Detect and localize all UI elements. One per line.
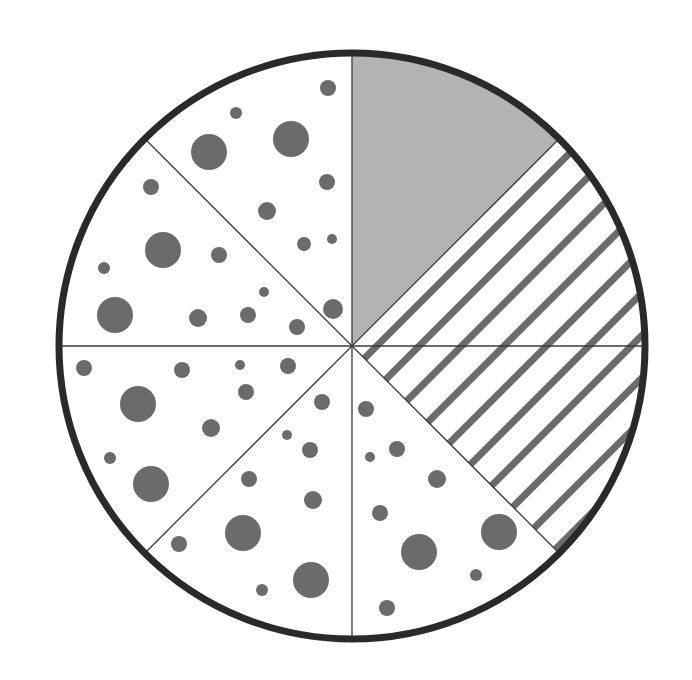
dot <box>240 307 256 323</box>
dot <box>120 386 156 422</box>
dot <box>319 174 335 190</box>
dot <box>302 442 318 458</box>
dot <box>280 358 296 374</box>
dot <box>256 584 268 596</box>
dot <box>133 466 169 502</box>
dot <box>76 360 92 376</box>
dot <box>189 309 207 327</box>
fraction-circle-svg <box>0 0 692 680</box>
dot <box>358 401 374 417</box>
dot <box>282 430 292 440</box>
dot <box>258 202 276 220</box>
dot <box>323 299 343 319</box>
dot <box>379 600 395 616</box>
dot <box>481 514 517 550</box>
dot <box>191 134 227 170</box>
dot <box>470 569 482 581</box>
dot <box>273 121 309 157</box>
dot <box>293 562 329 598</box>
dot <box>202 419 220 437</box>
dot <box>327 234 337 244</box>
dot <box>314 394 330 410</box>
dot <box>104 452 116 464</box>
dot <box>230 107 242 119</box>
dot <box>235 360 245 370</box>
dot <box>97 297 133 333</box>
dot <box>401 534 437 570</box>
dot <box>174 362 190 378</box>
dot <box>365 452 375 462</box>
dot <box>259 287 269 297</box>
dot <box>428 470 446 488</box>
dot <box>145 232 181 268</box>
fraction-circle-diagram: Fraction circle divided into 8 equal par… <box>0 0 692 680</box>
dot <box>241 471 257 487</box>
dot <box>143 179 159 195</box>
dot <box>289 319 305 335</box>
dot <box>98 262 110 274</box>
dot <box>211 247 227 263</box>
dot <box>297 237 311 251</box>
dot <box>372 505 388 521</box>
dot <box>389 441 405 457</box>
dot <box>225 515 261 551</box>
dot <box>304 491 322 509</box>
dot <box>320 80 336 96</box>
dot <box>171 536 187 552</box>
dot <box>238 384 254 400</box>
